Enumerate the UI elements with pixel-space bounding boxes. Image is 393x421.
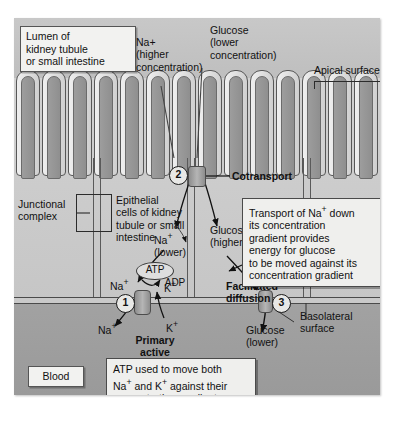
- callout-line2c: against their: [167, 379, 227, 391]
- step-marker-2: 2: [169, 166, 188, 185]
- microvillus: [146, 70, 170, 176]
- microvillus: [16, 70, 40, 176]
- junctional-complex-box: [76, 194, 112, 232]
- na-text: Na: [154, 234, 167, 246]
- microvillus: [42, 70, 66, 176]
- callout-line1: ATP used to move both: [113, 363, 222, 375]
- figure-canvas: 2 1 3 ATP ADP Lumen of kidney tubule or …: [0, 0, 393, 421]
- apical-surface-bracket: [314, 81, 380, 89]
- microvillus: [198, 70, 222, 176]
- sodium-potassium-pump-protein: [134, 290, 151, 315]
- callout-line1b: down: [327, 207, 355, 219]
- na-charge: +: [123, 277, 128, 287]
- atp-callout: ATP used to move bothNa+ and K+ against …: [106, 358, 256, 395]
- pump-potassium-in-label: K+: [164, 278, 176, 294]
- k-charge: +: [173, 319, 178, 329]
- junctional-complex-label: Junctional complex: [18, 198, 76, 223]
- cotransport-label: Cotransport: [232, 170, 292, 182]
- pump-sodium-out-label: Na+: [98, 320, 117, 336]
- blood-label: Blood: [28, 366, 84, 387]
- basolateral-surface-label: Basolateral surface: [300, 310, 364, 335]
- na-charge: +: [111, 321, 116, 331]
- cotransport-callout: Transport of Na+ downits concentration g…: [242, 198, 380, 287]
- k-text: K: [166, 322, 173, 334]
- callout-line1a: Transport of Na: [249, 207, 322, 219]
- cytoplasm-sodium-label: Na+(lower): [154, 230, 210, 258]
- basolateral-membrane: [14, 297, 380, 304]
- k-charge: +: [171, 279, 176, 289]
- cotransporter-protein: [188, 166, 206, 187]
- diagram-panel: 2 1 3 ATP ADP Lumen of kidney tubule or …: [14, 18, 380, 395]
- pump-sodium-in-label: Na+: [110, 276, 129, 292]
- callout-na: Na: [113, 379, 126, 391]
- na-sub: (lower): [154, 246, 186, 258]
- microvillus: [250, 70, 274, 176]
- step-marker-1: 1: [116, 294, 135, 313]
- microvillus: [224, 70, 248, 176]
- na-text: Na: [98, 324, 111, 336]
- pump-potassium-out-label: K+: [166, 318, 178, 334]
- lumen-label: Lumen of kidney tubule or small intestin…: [20, 26, 136, 72]
- lumen-sodium-label: Na+ (higher concentration): [136, 36, 206, 73]
- microvillus: [68, 70, 92, 176]
- lumen-glucose-label: Glucose (lower concentration): [210, 24, 300, 61]
- k-text: K: [164, 282, 171, 294]
- na-text: Na: [110, 280, 123, 292]
- callout-rest: its concentration gradient provides ener…: [249, 219, 357, 281]
- blood-glucose-label: Glucose (lower): [246, 324, 304, 349]
- microvillus: [120, 70, 144, 176]
- callout-and-k: and K: [132, 379, 162, 391]
- callout-line3: concentration gradients: [113, 392, 222, 395]
- apical-surface-label: Apical surface: [314, 64, 380, 76]
- na-charge: +: [167, 231, 172, 241]
- microvillus: [276, 70, 300, 176]
